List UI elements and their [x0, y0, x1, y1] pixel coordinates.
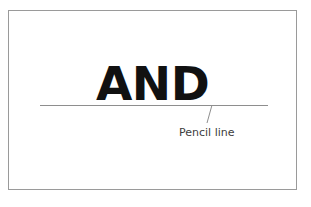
figure-root: AND Pencil line [0, 0, 311, 207]
pencil-line-annotation-label: Pencil line [179, 126, 235, 139]
and-lettering: AND [96, 60, 209, 107]
